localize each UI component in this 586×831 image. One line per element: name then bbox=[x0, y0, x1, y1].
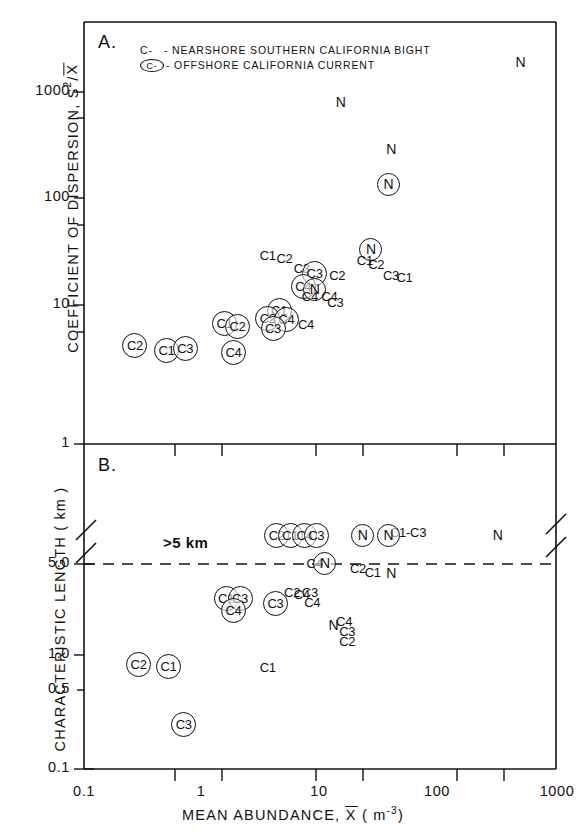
data-point-n-circled: N bbox=[377, 524, 400, 547]
data-point-c4: C4 bbox=[300, 595, 324, 611]
data-point-c4-circled: C4 bbox=[221, 598, 246, 623]
data-point-c2: C2 bbox=[335, 634, 359, 650]
data-point-c1: C1 bbox=[256, 660, 280, 676]
data-points-layer: NNNNNC1C2C3C1C1C2C3C3C2C4NC4C4C3C1C2C4C3… bbox=[0, 0, 586, 831]
data-point-c4: C4 bbox=[294, 317, 318, 333]
data-point-c1-circled: C1 bbox=[156, 654, 181, 679]
data-point-n: N bbox=[329, 94, 353, 110]
data-point-c2-circled: C2 bbox=[122, 333, 147, 358]
data-point-c3-circled: C3 bbox=[171, 712, 196, 737]
data-point-c2-circled: C2 bbox=[225, 314, 250, 339]
data-point-c3-circled: C3 bbox=[173, 336, 198, 361]
data-point-c1: C1 bbox=[392, 270, 416, 286]
data-point-c3-circled: C3 bbox=[263, 591, 288, 616]
data-point-n: N bbox=[508, 54, 532, 70]
data-point-n: N bbox=[486, 527, 510, 543]
data-point-n-circled: N bbox=[377, 173, 400, 196]
data-point-c4-circled: C4 bbox=[221, 340, 246, 365]
data-point-c3-circled: C3 bbox=[261, 316, 286, 341]
data-point-n: N bbox=[379, 141, 403, 157]
data-point-n: N bbox=[379, 565, 403, 581]
figure-container: COEFFICIENT OF DISPERSION, S2/X CHARACTE… bbox=[0, 0, 586, 831]
data-point-n-circled: N bbox=[351, 524, 374, 547]
data-point-c2: C2 bbox=[325, 268, 349, 284]
data-point-c2-circled: C2 bbox=[126, 652, 151, 677]
data-point-c3: C3 bbox=[323, 295, 347, 311]
data-point-n-circled: N bbox=[313, 552, 336, 575]
data-point-c3-circled: C3 bbox=[304, 523, 329, 548]
